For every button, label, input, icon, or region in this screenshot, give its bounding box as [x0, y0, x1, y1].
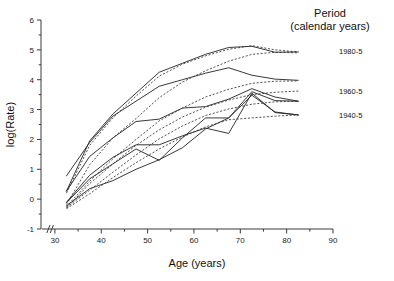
legend-title-line1: Period	[314, 7, 346, 19]
legend-label-1960-5: 1960-5	[339, 87, 362, 96]
x-tick-label: 40	[97, 236, 106, 245]
legend-title-line2: (calendar years)	[290, 20, 369, 32]
x-tick-label: 90	[329, 236, 338, 245]
legend: Period (calendar years) 1980-51960-51940…	[290, 7, 369, 120]
x-axis: 30405060708090	[42, 225, 338, 245]
legend-label-1980-5: 1980-5	[339, 47, 362, 56]
y-axis-title: log(Rate)	[4, 102, 16, 147]
y-tick-label: 5	[30, 46, 35, 55]
x-tick-label: 70	[236, 236, 245, 245]
series-line-solid-6	[66, 95, 298, 205]
y-tick-group	[37, 20, 41, 229]
x-tick-label: 80	[282, 236, 291, 245]
y-tick-label: 1	[30, 165, 35, 174]
legend-label-1940-5: 1940-5	[339, 111, 362, 120]
y-tick-label-group: -10123456	[27, 16, 35, 234]
x-tick-label: 50	[143, 236, 152, 245]
y-tick-label: 3	[30, 106, 35, 115]
y-axis: -10123456	[27, 16, 41, 234]
series-line-solid-1	[66, 46, 298, 191]
y-tick-label: 2	[30, 135, 35, 144]
x-tick-label: 60	[189, 236, 198, 245]
x-tick-label: 30	[50, 236, 59, 245]
y-tick-label: 4	[30, 76, 35, 85]
x-axis-title: Age (years)	[169, 257, 226, 269]
y-tick-label: -1	[27, 225, 35, 234]
line-chart-canvas: -10123456 30405060708090 log(Rate) Age (…	[0, 0, 394, 281]
y-tick-label: 0	[30, 195, 35, 204]
data-series-layer	[66, 46, 298, 209]
y-tick-label: 6	[30, 16, 35, 25]
series-line-dashed-4	[66, 91, 298, 208]
x-tick-label-group: 30405060708090	[50, 236, 338, 245]
chart-figure: -10123456 30405060708090 log(Rate) Age (…	[0, 0, 394, 281]
x-tick-group	[55, 229, 333, 234]
series-line-solid-2	[66, 68, 298, 176]
legend-entry-group: 1980-51960-51940-5	[339, 47, 362, 120]
series-line-dashed-3	[66, 81, 298, 207]
